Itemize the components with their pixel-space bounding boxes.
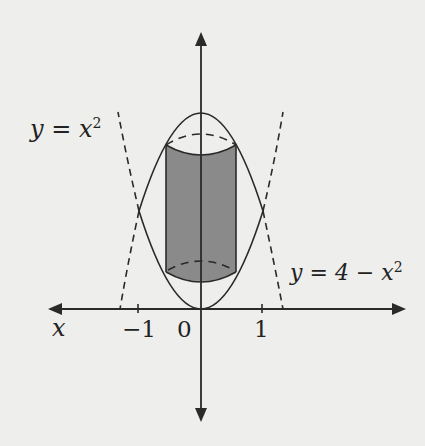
x-axis-right-arrow-icon <box>392 303 406 315</box>
y-axis-down-arrow-icon <box>195 408 207 422</box>
label-y: y <box>290 260 302 285</box>
label-eq: = <box>309 260 327 285</box>
tick-label-zero: 0 <box>177 316 192 342</box>
label-exponent: 2 <box>93 115 102 131</box>
y-axis-up-arrow-icon <box>195 32 207 46</box>
lower-parabola-label: y = x2 <box>30 115 101 143</box>
tick-label-neg-one: −1 <box>122 316 156 342</box>
lower-parabola-left-dashed <box>118 112 139 211</box>
upper-parabola-left-dashed <box>120 211 139 309</box>
label-rhs: x <box>79 115 93 143</box>
parabola-cylinder-diagram <box>0 0 425 446</box>
label-rhs: 4 − x <box>335 260 394 285</box>
upper-parabola-label: y = 4 − x2 <box>290 260 403 285</box>
x-axis-label: x <box>52 314 66 342</box>
label-eq: = <box>51 115 71 143</box>
lower-parabola-right-dashed <box>263 112 283 211</box>
label-exponent: 2 <box>394 259 403 275</box>
upper-parabola-right-dashed <box>263 211 283 309</box>
tick-label-one: 1 <box>254 316 269 342</box>
label-y: y <box>30 115 44 143</box>
